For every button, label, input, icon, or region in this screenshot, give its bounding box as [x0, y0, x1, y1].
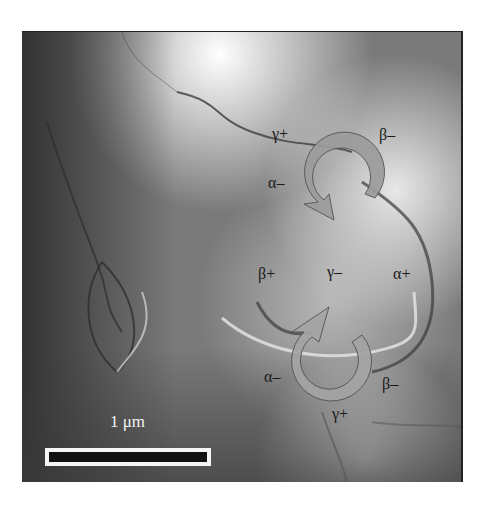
label-top-gamma-plus: γ+	[272, 126, 288, 142]
label-mid-beta-plus: β+	[258, 266, 275, 282]
micrograph-frame: γ+ β– α– β+ γ– α+ α– β– γ+ 1 μm	[22, 31, 463, 482]
label-bottom-gamma-plus: γ+	[332, 406, 348, 422]
scale-bar-label: 1 μm	[110, 412, 145, 432]
label-top-alpha-minus: α–	[268, 175, 284, 191]
label-bottom-alpha-minus: α–	[264, 369, 280, 385]
scale-bar	[45, 448, 211, 466]
label-bottom-beta-minus: β–	[382, 376, 398, 392]
label-mid-gamma-minus: γ–	[327, 264, 342, 280]
label-mid-alpha-plus: α+	[393, 266, 410, 282]
bottom-vortex-arrow-icon	[22, 32, 461, 482]
label-top-beta-minus: β–	[379, 127, 395, 143]
